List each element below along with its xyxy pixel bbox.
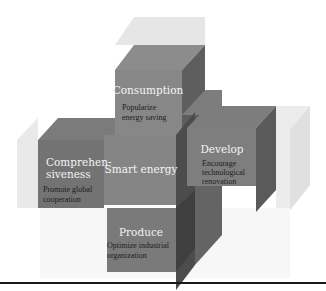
smart-energy-title: Smart energy <box>105 163 178 175</box>
comprehensiveness-desc-line2: cooperation <box>43 195 81 204</box>
consumption-desc-line2: energy saving <box>122 113 167 122</box>
produce-title: Produce <box>119 226 163 238</box>
produce-front-face <box>107 208 176 272</box>
develop-title: Develop <box>200 143 243 155</box>
ghost-top-consumption <box>115 17 205 45</box>
produce-desc-line2: organization <box>107 251 147 260</box>
produce-desc-line1: Optimize industrial <box>107 241 170 250</box>
develop-desc-line3: renovation <box>202 177 236 186</box>
consumption-title: Consumption <box>113 84 184 96</box>
develop-desc-line1: Encourage <box>202 159 237 168</box>
smart-energy-diagram: Consumption Popularize energy saving Com… <box>0 0 326 291</box>
comprehensiveness-desc-line1: Promote global <box>43 185 93 194</box>
comprehensiveness-top-face <box>38 118 115 140</box>
develop-desc-line2: technological <box>202 168 246 177</box>
ghost-left-comprehensiveness <box>17 118 38 208</box>
bottom-rule <box>0 282 326 284</box>
consumption-desc-line1: Popularize <box>122 103 157 112</box>
comprehensiveness-title-line2: siveness <box>46 168 91 180</box>
comprehensiveness-title-line1: Comprehen- <box>46 156 112 168</box>
